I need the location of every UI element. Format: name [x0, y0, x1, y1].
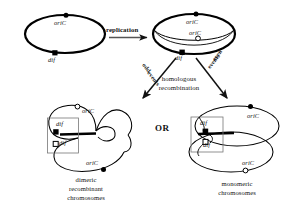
- monomer-dif-upper-label: dif: [200, 120, 207, 127]
- dimer-dif-upper-label: dif: [56, 121, 63, 128]
- monomer-oric-lower-label: oriC: [242, 160, 254, 167]
- dif-filled-square-marker-dimer: [53, 129, 58, 134]
- dif-filled-square-marker: [52, 50, 57, 55]
- oric-open-circle-marker-monomer: [243, 168, 248, 173]
- homologous-recombination-line1: homologous: [139, 75, 219, 83]
- dimer-caption-line2: recombinant: [46, 185, 126, 194]
- oric-filled-circle-marker-theta: [194, 12, 199, 17]
- oric-filled-circle-marker-monomer: [248, 104, 253, 109]
- monomer-oric-upper-label: oriC: [247, 113, 259, 120]
- monomer-caption-line1: monomeric: [197, 180, 277, 189]
- theta-oric-top-label: oriC: [186, 19, 198, 26]
- parent-oric-label: oriC: [54, 20, 66, 27]
- or-label: OR: [155, 124, 169, 133]
- figure-canvas: oriC dif replication oriC oriC dif odd e…: [0, 0, 300, 206]
- oric-filled-circle-marker-dimer: [101, 167, 106, 172]
- monomer-caption-line2: chromosomes: [197, 189, 277, 198]
- diagram-vector-layer: [0, 0, 300, 206]
- dimer-oric-upper-label: oriC: [82, 108, 94, 115]
- oric-filled-circle-marker: [64, 13, 69, 18]
- homologous-recombination-line2: recombination: [139, 84, 219, 92]
- oric-open-circle-marker-theta: [196, 36, 201, 41]
- theta-oric-inner-label: oriC: [189, 30, 201, 37]
- oric-open-circle-marker-dimer: [75, 104, 80, 109]
- monomeric-chromosomes-shape: [189, 104, 279, 173]
- dimer-oric-lower-label: oriC: [86, 160, 98, 167]
- theta-dif-label: dif: [175, 55, 182, 62]
- replication-label: replication: [106, 26, 138, 33]
- dimer-dif-lower-label: dif: [59, 140, 66, 147]
- dif-filled-square-marker-monomer: [203, 129, 209, 135]
- monomer-dif-lower-label: dif: [203, 142, 210, 149]
- dimer-caption-line1: dimeric: [46, 176, 126, 185]
- dimer-caption-line3: chromosomes: [46, 194, 126, 203]
- parent-dif-label: dif: [48, 57, 55, 64]
- dif-open-square-marker-dimer: [53, 141, 58, 146]
